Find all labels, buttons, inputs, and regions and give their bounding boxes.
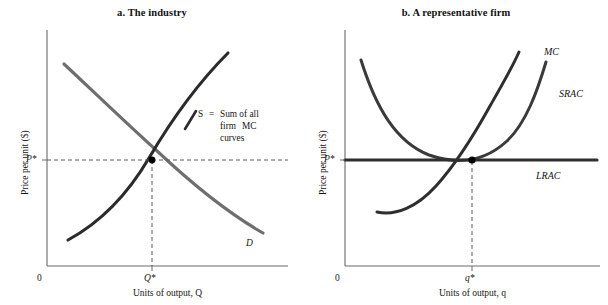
annotation-symbol-s: S xyxy=(198,108,203,120)
srac-curve-label: SRAC xyxy=(559,88,583,101)
quantity-tick-label-b: q* xyxy=(465,272,475,284)
lrac-curve-label: LRAC xyxy=(536,170,560,183)
figure-container: a. The industry Price per unit ($) xyxy=(0,0,608,305)
demand-curve xyxy=(64,64,263,233)
panel-representative-firm: b. A representative firm Price per unit … xyxy=(304,0,608,305)
supply-curve xyxy=(68,53,228,240)
origin-label-a: 0 xyxy=(37,272,42,284)
price-tick-label-a: P* xyxy=(26,153,37,165)
equilibrium-point-a xyxy=(149,157,156,164)
annotation-line-3: curves xyxy=(220,132,244,144)
demand-curve-label: D xyxy=(246,237,253,249)
panel-industry: a. The industry Price per unit ($) xyxy=(0,0,304,305)
x-axis-label-a: Units of output, Q xyxy=(47,288,288,298)
annotation-line-2-symbol: MC xyxy=(242,120,256,132)
x-axis-label-b: Units of output, q xyxy=(345,288,600,298)
annotation-line-2-prefix: firm xyxy=(220,120,238,132)
annotation-line-1: Sum of all xyxy=(220,108,259,120)
panel-a-plot xyxy=(0,0,304,305)
price-tick-label-b: P* xyxy=(324,153,335,165)
panel-b-plot xyxy=(304,0,608,305)
annotation-leader-line xyxy=(185,111,196,129)
mc-curve-label: MC xyxy=(544,46,559,59)
srac-curve xyxy=(361,60,546,160)
annotation-equals: = xyxy=(209,108,214,120)
quantity-tick-label-a: Q* xyxy=(144,272,156,284)
tangency-point-b xyxy=(468,156,475,163)
origin-label-b: 0 xyxy=(335,272,340,284)
